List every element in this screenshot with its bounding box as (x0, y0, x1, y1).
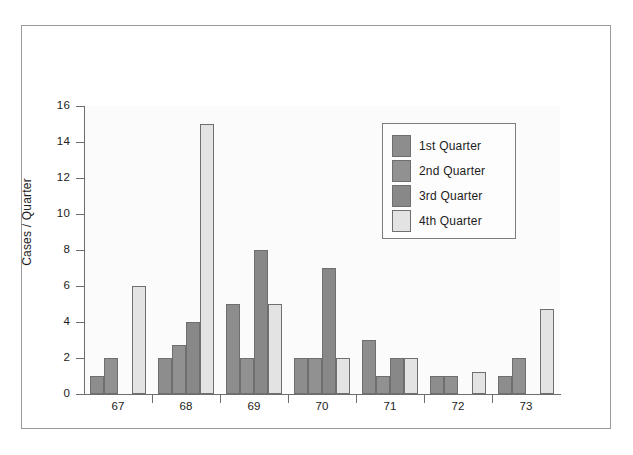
y-tick-label-text: 0 (44, 387, 70, 399)
x-tick-mark (288, 394, 289, 403)
bar (158, 358, 172, 394)
legend-label: 1st Quarter (419, 139, 481, 153)
y-tick-mark (76, 394, 85, 395)
y-tick-label: 4 (44, 315, 70, 329)
y-tick-label: 12 (44, 171, 70, 185)
y-tick-label: 2 (44, 351, 70, 365)
y-tick-mark (76, 358, 85, 359)
y-tick-label-text: 10 (44, 207, 70, 219)
bar (390, 358, 404, 394)
bar (186, 322, 200, 394)
bar (104, 358, 118, 394)
x-tick-label: 71 (360, 400, 420, 412)
bar (172, 345, 186, 394)
bar (430, 376, 444, 394)
y-tick-mark (76, 286, 85, 287)
x-tick-label: 73 (496, 400, 556, 412)
bar (512, 358, 526, 394)
x-tick-label: 70 (292, 400, 352, 412)
bar (240, 358, 254, 394)
legend-swatch-icon (392, 185, 411, 207)
x-axis-line (84, 394, 561, 395)
bar (294, 358, 308, 394)
x-tick-mark (492, 394, 493, 403)
y-tick-mark (76, 106, 85, 107)
legend-item: 1st Quarter (392, 134, 481, 158)
y-axis-title: Cases / Quarter (20, 157, 34, 287)
bar (132, 286, 146, 394)
bar (90, 376, 104, 394)
bar (200, 124, 214, 394)
y-tick-label: 6 (44, 279, 70, 293)
y-tick-label-text: 8 (44, 243, 70, 255)
y-tick-label-text: 4 (44, 315, 70, 327)
x-tick-label: 68 (156, 400, 216, 412)
x-tick-mark (220, 394, 221, 403)
x-tick-label: 67 (88, 400, 148, 412)
bar (404, 358, 418, 394)
y-tick-mark (76, 178, 85, 179)
y-tick-label-text: 2 (44, 351, 70, 363)
bar-chart: Cases / Quarter 0246810121416 6768697071… (0, 0, 633, 455)
y-tick-label: 8 (44, 243, 70, 257)
bar (322, 268, 336, 394)
bar (444, 376, 458, 394)
bar (376, 376, 390, 394)
bar (362, 340, 376, 394)
bar (498, 376, 512, 394)
legend-label: 2nd Quarter (419, 164, 485, 178)
x-tick-mark (356, 394, 357, 403)
y-tick-label: 16 (44, 99, 70, 113)
y-tick-label-text: 14 (44, 135, 70, 147)
bar (254, 250, 268, 394)
legend-label: 4th Quarter (419, 214, 482, 228)
y-tick-label: 10 (44, 207, 70, 221)
legend: 1st Quarter2nd Quarter3rd Quarter4th Qua… (382, 123, 516, 239)
bar (308, 358, 322, 394)
y-tick-label-text: 6 (44, 279, 70, 291)
bar (472, 372, 486, 394)
y-tick-label-text: 16 (44, 99, 70, 111)
bar (540, 309, 554, 394)
y-tick-mark (76, 250, 85, 251)
legend-swatch-icon (392, 135, 411, 157)
y-tick-mark (76, 214, 85, 215)
x-tick-label: 72 (428, 400, 488, 412)
x-tick-mark (424, 394, 425, 403)
x-tick-mark (152, 394, 153, 403)
y-tick-label: 14 (44, 135, 70, 149)
legend-item: 4th Quarter (392, 209, 482, 233)
legend-item: 2nd Quarter (392, 159, 485, 183)
legend-swatch-icon (392, 160, 411, 182)
y-tick-mark (76, 322, 85, 323)
bar (226, 304, 240, 394)
y-tick-label-text: 12 (44, 171, 70, 183)
legend-item: 3rd Quarter (392, 184, 483, 208)
x-tick-label: 69 (224, 400, 284, 412)
y-tick-mark (76, 142, 85, 143)
y-tick-label: 0 (44, 387, 70, 401)
bar (268, 304, 282, 394)
bar (336, 358, 350, 394)
legend-label: 3rd Quarter (419, 189, 483, 203)
legend-swatch-icon (392, 210, 411, 232)
